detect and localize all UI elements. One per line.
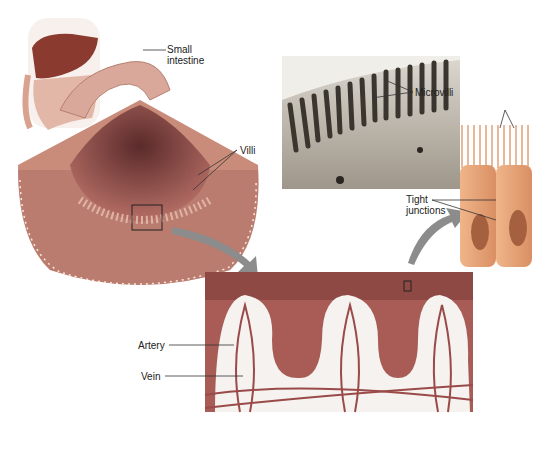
label-tight-junctions: Tight junctions [406, 194, 445, 216]
intestine-diagram [0, 0, 554, 466]
label-artery: Artery [138, 340, 165, 351]
label-small-intestine: Small intestine [167, 44, 204, 66]
microvilli-micrograph [282, 56, 460, 189]
torso-illustration [25, 18, 100, 130]
label-villi: Villi [240, 145, 255, 156]
nucleus [509, 210, 527, 246]
villi-detail [205, 272, 473, 412]
arrow-to-cells [408, 208, 468, 265]
label-microvilli: Microvilli [415, 87, 453, 98]
epithelial-cells [460, 125, 532, 267]
nucleus [471, 214, 489, 250]
label-vein: Vein [141, 371, 160, 382]
